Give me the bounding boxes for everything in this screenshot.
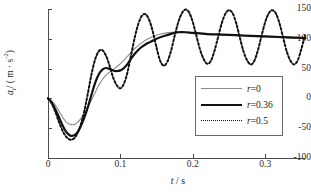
legend-label-r036: r=0.36 xyxy=(242,100,273,110)
legend-entry-r0: r=0 xyxy=(201,81,277,97)
legend-swatch-r05 xyxy=(201,116,242,126)
legend-label-r0: r=0 xyxy=(242,84,261,94)
legend-entry-r036: r=0.36 xyxy=(201,97,277,113)
legend-entry-r05: r=0.5 xyxy=(201,113,277,129)
legend-label-r05: r=0.5 xyxy=(242,116,268,126)
legend-swatch-r036 xyxy=(201,100,242,110)
legend-box: r=0 r=0.36 r=0.5 xyxy=(195,76,283,136)
legend-swatch-r0 xyxy=(201,84,242,94)
chart-figure: 150 100 50 0 -50 -100 0 0.1 0.2 0.3 at/ … xyxy=(0,0,311,196)
